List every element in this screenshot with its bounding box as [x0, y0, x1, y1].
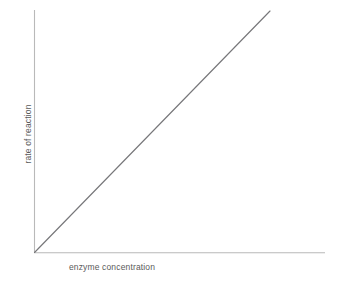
- data-line-rate-of-reaction: [35, 11, 271, 253]
- plot-canvas: [0, 0, 340, 286]
- x-axis-title: enzyme concentration: [0, 263, 340, 272]
- y-axis-title: rate of reaction: [24, 104, 33, 163]
- chart-figure: enzyme concentration rate of reaction: [0, 0, 340, 286]
